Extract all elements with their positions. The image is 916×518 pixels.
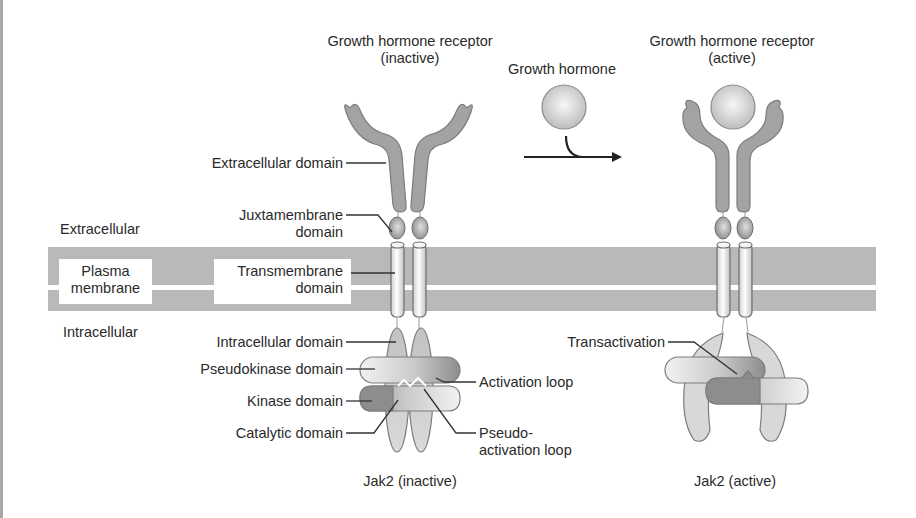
label-transactivation: Transactivation (540, 334, 665, 351)
label-catalytic-domain: Catalytic domain (150, 425, 343, 442)
label-plasma-membrane: Plasma membrane (59, 263, 152, 297)
jak2-inactive-graphic (360, 328, 460, 452)
label-extracellular: Extracellular (60, 221, 140, 238)
receptor-active (683, 85, 783, 212)
label-line: Pseudo- (479, 425, 572, 442)
growth-hormone-graphic (524, 85, 622, 162)
label-pseudo-activation-loop: Pseudo- activation loop (479, 425, 572, 459)
label-intracellular: Intracellular (63, 324, 138, 341)
label-intracellular-domain: Intracellular domain (150, 334, 343, 351)
title-growth-hormone: Growth hormone (487, 61, 637, 78)
label-line: domain (150, 280, 343, 297)
label-transmembrane-domain: Transmembrane domain (150, 263, 343, 297)
title-line: (inactive) (305, 50, 515, 67)
label-line: activation loop (479, 442, 572, 459)
title-receptor-inactive: Growth hormone receptor (inactive) (305, 33, 515, 67)
label-line: domain (150, 224, 343, 241)
label-line: membrane (59, 280, 152, 297)
label-kinase-domain: Kinase domain (150, 393, 343, 410)
label-extracellular-domain: Extracellular domain (150, 155, 343, 172)
juxtamembrane-inactive (389, 212, 428, 239)
label-line: Juxtamembrane (150, 207, 343, 224)
label-line: Transmembrane (150, 263, 343, 280)
title-line: (active) (627, 50, 837, 67)
label-pseudokinase-domain: Pseudokinase domain (150, 361, 343, 378)
title-receptor-active: Growth hormone receptor (active) (627, 33, 837, 67)
label-juxtamembrane-domain: Juxtamembrane domain (150, 207, 343, 241)
label-line: Plasma (59, 263, 152, 280)
juxtamembrane-active (715, 212, 753, 239)
jak2-active-graphic (665, 333, 808, 441)
receptor-inactive (345, 104, 473, 212)
label-activation-loop: Activation loop (479, 374, 573, 391)
title-jak2-inactive: Jak2 (inactive) (340, 473, 480, 490)
title-line: Growth hormone receptor (627, 33, 837, 50)
title-line: Growth hormone receptor (305, 33, 515, 50)
title-jak2-active: Jak2 (active) (665, 473, 805, 490)
diagram-canvas: Growth hormone receptor (inactive) Growt… (0, 0, 916, 518)
